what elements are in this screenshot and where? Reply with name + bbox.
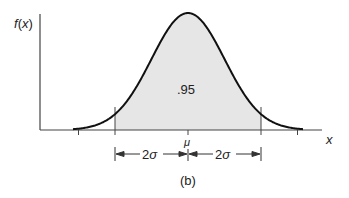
arrowhead-right-inner	[189, 152, 197, 157]
arrowhead-left-outer	[116, 152, 124, 157]
x-axis-label: x	[325, 132, 333, 147]
span-dimension	[115, 147, 261, 161]
shaded-area-95	[115, 13, 261, 130]
right-span-label: 2σ	[215, 147, 231, 162]
area-label: .95	[177, 82, 195, 97]
arrowhead-left-inner	[179, 152, 187, 157]
x-axis-ticks	[79, 130, 298, 135]
left-span-label: 2σ	[142, 147, 158, 162]
arrowhead-right-outer	[252, 152, 260, 157]
figure-caption: (b)	[180, 173, 196, 188]
mean-label: μ	[183, 136, 190, 148]
normal-distribution-figure: f(x) x .95 μ 2σ 2σ (b)	[0, 0, 349, 198]
y-axis-label: f(x)	[14, 16, 33, 31]
